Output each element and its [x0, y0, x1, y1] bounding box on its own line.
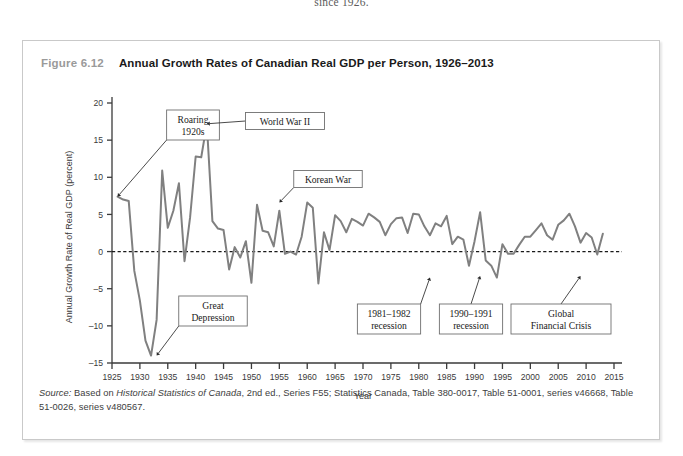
- annotation-label: Depression: [191, 312, 234, 323]
- annotation-leader-line: [120, 140, 167, 194]
- annotation-label: World War II: [260, 116, 311, 127]
- x-tick-label: 1950: [242, 372, 261, 382]
- x-tick-label: 1975: [381, 372, 400, 382]
- x-tick-label: 1990: [465, 372, 484, 382]
- source-italic-title: Historical Statistics of Canada: [116, 388, 241, 398]
- annotation-leader-line: [561, 279, 579, 304]
- annotation-label: Roaring: [178, 114, 209, 125]
- annotation-leader-line: [421, 280, 429, 304]
- annotation-arrowhead: [157, 352, 160, 356]
- annotation-label: 1981–1982: [367, 308, 410, 319]
- annotation-label: Great: [202, 300, 224, 311]
- x-tick-label: 2000: [521, 372, 540, 382]
- x-tick-label: 1930: [130, 372, 149, 382]
- annotation-label: Financial Crisis: [531, 320, 592, 331]
- x-axis: 1925193019351940194519501955196019651970…: [102, 363, 623, 382]
- x-tick-label: 1940: [186, 372, 205, 382]
- figure-frame: Figure 6.12Annual Growth Rates of Canadi…: [22, 40, 660, 440]
- y-tick-label: –10: [89, 321, 104, 331]
- y-tick-label: –15: [89, 358, 104, 368]
- y-axis-label: Annual Growth Rate of Real GDP (percent): [64, 151, 74, 323]
- clipped-body-text: since 1926.: [0, 0, 683, 8]
- source-label: Source:: [39, 388, 71, 398]
- x-tick-label: 2015: [604, 372, 623, 382]
- annotation-label: 1920s: [182, 126, 205, 137]
- x-tick-label: 1935: [158, 372, 177, 382]
- annotation-leader-line: [158, 326, 178, 353]
- x-tick-label: 1980: [409, 372, 428, 382]
- x-tick-label: 2005: [549, 372, 568, 382]
- annotation-leader-line: [471, 279, 479, 304]
- y-tick-label: 10: [93, 172, 103, 182]
- x-tick-label: 1995: [493, 372, 512, 382]
- x-tick-label: 1985: [437, 372, 456, 382]
- x-tick-label: 1965: [326, 372, 345, 382]
- source-prefix: Based on: [71, 388, 116, 398]
- y-tick-label: 0: [98, 247, 103, 257]
- y-tick-label: 15: [93, 135, 103, 145]
- x-tick-label: 1925: [102, 372, 121, 382]
- source-note: Source: Based on Historical Statistics o…: [39, 386, 647, 414]
- annotation-label: recession: [371, 320, 407, 331]
- x-tick-label: 1945: [214, 372, 233, 382]
- annotation-label: 1990–1991: [449, 308, 492, 319]
- annotation-label: Global: [548, 308, 574, 319]
- x-tick-label: 1955: [270, 372, 289, 382]
- y-axis: –15–10–505101520: [89, 97, 112, 368]
- x-tick-label: 2010: [577, 372, 596, 382]
- gdp-growth-line-chart: –15–10–505101520 19251930193519401945195…: [23, 41, 661, 441]
- x-tick-label: 1960: [298, 372, 317, 382]
- y-tick-label: 20: [93, 98, 103, 108]
- y-tick-label: –5: [93, 284, 103, 294]
- annotation-label: Korean War: [305, 174, 352, 185]
- annotation-leader-line: [281, 188, 293, 201]
- annotations-group: Roaring1920sWorld War IIGreatDepressionK…: [118, 110, 611, 356]
- y-tick-label: 5: [98, 210, 103, 220]
- annotation-label: recession: [453, 320, 489, 331]
- x-tick-label: 1970: [353, 372, 372, 382]
- chart-canvas: –15–10–505101520 19251930193519401945195…: [23, 41, 661, 441]
